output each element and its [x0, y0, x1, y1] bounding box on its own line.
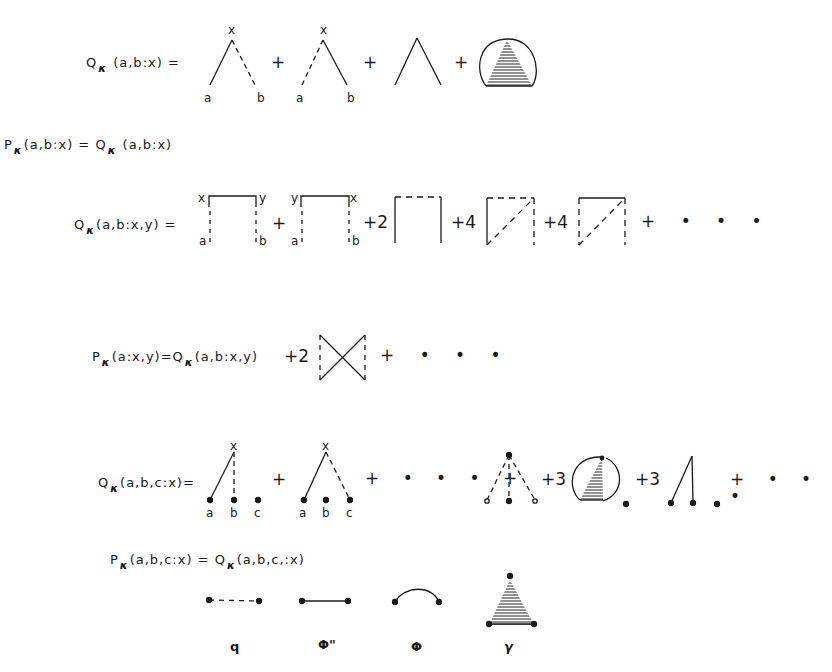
eq5-d1-label-a: a: [206, 507, 213, 519]
eq1-op-1: +: [271, 54, 285, 71]
legend-symbol-gamma-triangle: [487, 574, 537, 627]
eq3-diagram-3: [395, 197, 441, 243]
eq4-op-2-ellipsis: + • • •: [380, 347, 511, 364]
eq4-symbol: P: [92, 349, 101, 364]
eq5-diagram-2: [302, 452, 353, 503]
eq6-line: Pκ(a,b,c:x) = Qκ(a,b,c,:x): [110, 553, 305, 566]
eq3-d1-label-b: b: [259, 235, 267, 247]
eq5-op-2-ellipsis: + • • • +: [365, 470, 526, 487]
legend-label-gamma: γ: [504, 640, 513, 653]
eq5-subscript: κ: [110, 482, 119, 495]
eq4-subscript: κ: [102, 356, 111, 369]
eq6-subscript-2: κ: [227, 559, 236, 572]
legend-symbol-q-dashed: [207, 598, 262, 604]
eq4-end: (a,b:x,y): [195, 349, 258, 364]
eq4-op-1: +2: [284, 348, 309, 365]
eq3-diagram-4: [487, 198, 534, 245]
eq3-d2-label-x: x: [350, 192, 357, 204]
eq6-subscript: κ: [120, 559, 129, 572]
eq5-diagram-1: [208, 452, 261, 503]
eq5-d2-label-x: x: [322, 440, 329, 452]
eq5-d1-label-x: x: [230, 440, 237, 452]
eq1-diagram-4-loop-triangle: [480, 39, 537, 86]
legend-label-phi: Φ: [411, 640, 422, 653]
eq1-symbol: Q: [86, 55, 97, 70]
eq3-lhs: Qκ(a,b:x,y) =: [74, 218, 176, 231]
eq5-op-5-ellipsis: + • • •: [730, 471, 832, 505]
eq1-subscript: κ: [98, 62, 107, 75]
legend-label-phi-double-prime: Φ": [318, 638, 336, 651]
eq5-symbol: Q: [98, 475, 109, 490]
eq3-d2-label-a: a: [291, 235, 298, 247]
eq3-diagram-1: [209, 196, 256, 242]
eq3-subscript: κ: [86, 224, 95, 237]
eq2-subscript-2: κ: [108, 144, 117, 157]
eq3-diagram-5: [579, 198, 625, 245]
eq1-d2-label-a: a: [296, 92, 303, 104]
eq1-diagram-3: [395, 38, 441, 85]
eq3-op-4: +4: [543, 214, 568, 231]
eq3-op-3: +4: [451, 214, 476, 231]
legend-symbol-phi-arc: [393, 589, 442, 604]
eq5-args: (a,b,c:x)=: [120, 475, 195, 490]
eq1-d2-label-b: b: [347, 92, 355, 104]
eq5-d1-label-c: c: [254, 507, 261, 519]
eq5-d2-label-a: a: [299, 507, 306, 519]
eq4-diagram-bowtie: [320, 335, 365, 380]
eq5-d2-label-b: b: [322, 507, 330, 519]
eq1-d1-label-x: x: [228, 24, 235, 36]
eq3-symbol: Q: [74, 217, 85, 232]
eq5-diagram-5: [669, 456, 720, 507]
eq5-op-3: +3: [541, 471, 566, 488]
eq3-d1-label-y: y: [259, 192, 266, 204]
eq1-op-2: +: [363, 54, 377, 71]
eq4-subscript-2: κ: [185, 356, 194, 369]
eq5-d1-label-b: b: [230, 507, 238, 519]
eq3-d2-label-y: y: [291, 192, 298, 204]
eq2-mid: (a,b:x) = Q: [24, 137, 107, 152]
eq1-lhs: Qκ (a,b:x) =: [86, 56, 180, 69]
legend-symbol-phi2-solid: [300, 599, 351, 604]
eq4-lhs: Pκ(a:x,y)=Qκ(a,b:x,y): [92, 350, 258, 363]
eq1-d1-label-b: b: [257, 92, 265, 104]
eq6-mid: (a,b,c:x) = Q: [130, 552, 226, 567]
eq2-line: Pκ(a,b:x) = Qκ (a,b:x): [4, 138, 172, 151]
eq1-args: (a,b:x) =: [113, 55, 180, 70]
eq1-d2-label-x: x: [320, 24, 327, 36]
eq6-symbol: P: [110, 552, 119, 567]
eq2-subscript: κ: [14, 144, 23, 157]
eq4-mid: (a:x,y)=Q: [112, 349, 184, 364]
eq5-lhs: Qκ(a,b,c:x)=: [98, 476, 195, 489]
legend-label-q: q: [230, 640, 239, 653]
eq2-symbol: P: [4, 137, 13, 152]
eq3-d1-label-a: a: [199, 235, 206, 247]
eq1-diagram-1: [210, 40, 255, 85]
eq3-d1-label-x: x: [198, 192, 205, 204]
eq5-op-1: +: [272, 471, 286, 488]
eq1-op-3: +: [454, 54, 468, 71]
eq1-diagram-2: [302, 40, 347, 85]
eq5-op-4: +3: [635, 471, 660, 488]
eq2-end: (a,b:x): [123, 137, 173, 152]
eq3-op-5-ellipsis: + • • •: [641, 213, 772, 230]
eq5-diagram-4-loop-triangle: [572, 456, 628, 506]
eq3-diagram-2: [301, 196, 349, 242]
eq3-args: (a,b:x,y) =: [96, 217, 176, 232]
eq1-d1-label-a: a: [204, 92, 211, 104]
eq5-d2-label-c: c: [346, 507, 353, 519]
eq3-op-1: +: [272, 215, 286, 232]
eq6-end: (a,b,c,:x): [237, 552, 305, 567]
eq3-op-2: +2: [363, 214, 388, 231]
eq3-d2-label-b: b: [352, 235, 360, 247]
